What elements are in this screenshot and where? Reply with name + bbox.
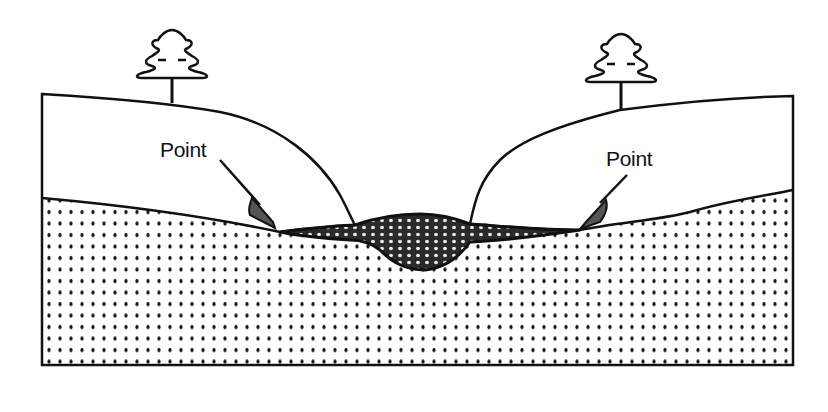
stream-cross-section-diagram	[0, 0, 828, 412]
upper-soil-layer	[42, 94, 793, 225]
left-point-arrow-icon	[220, 160, 275, 228]
left-tree-icon	[137, 30, 207, 103]
right-tree-icon	[586, 34, 656, 109]
right-point-label: Point	[606, 147, 652, 171]
right-point-arrow-icon	[580, 175, 627, 229]
left-point-label: Point	[160, 138, 206, 162]
